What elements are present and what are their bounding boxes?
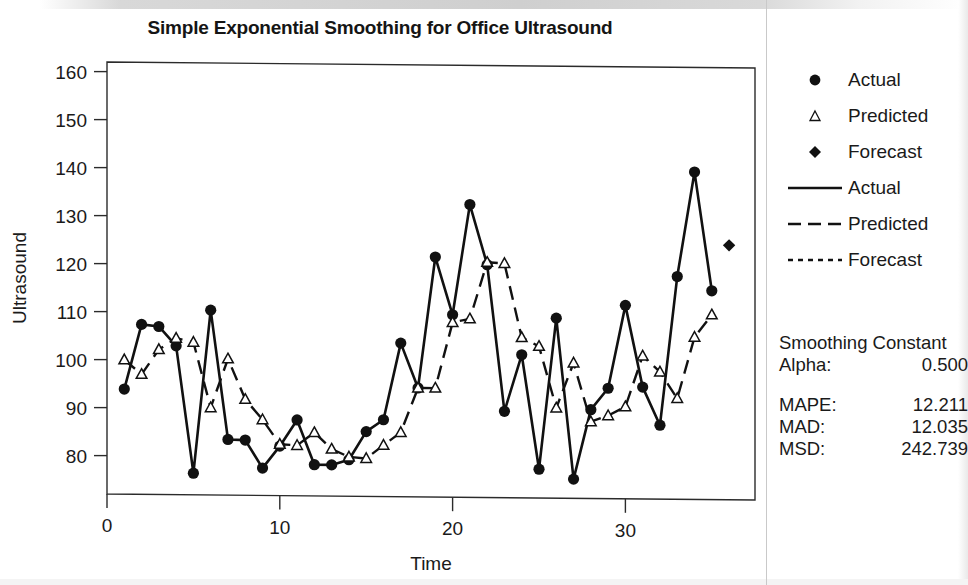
data-point-predicted xyxy=(465,313,476,323)
data-point-actual xyxy=(585,404,596,415)
y-axis-tick-label: 90 xyxy=(66,398,87,419)
data-point-actual xyxy=(551,313,562,324)
data-point-actual xyxy=(205,305,216,316)
legend-item-predicted-marker: Predicted xyxy=(782,98,968,134)
alpha-value: 0.500 xyxy=(922,354,968,376)
legend-label: Predicted xyxy=(848,213,928,235)
y-axis-tick-label: 100 xyxy=(55,350,87,371)
legend-item-forecast-line: Forecast xyxy=(782,242,968,278)
data-point-actual xyxy=(326,459,337,470)
filled-diamond-marker-icon xyxy=(782,142,848,162)
legend-label: Forecast xyxy=(848,249,922,271)
data-point-forecast xyxy=(723,239,735,251)
series-line-actual xyxy=(124,172,712,479)
data-point-actual xyxy=(568,474,579,485)
data-point-actual xyxy=(706,285,717,296)
data-point-predicted xyxy=(516,332,527,342)
data-point-predicted xyxy=(499,258,510,268)
data-point-actual xyxy=(430,251,441,262)
legend-item-predicted-line: Predicted xyxy=(782,206,968,242)
legend-label: Actual xyxy=(848,177,901,199)
data-point-predicted xyxy=(637,350,648,360)
data-point-predicted xyxy=(119,354,130,364)
msd-row: MSD: 242.739 xyxy=(779,438,968,460)
msd-label: MSD: xyxy=(779,438,825,460)
statistics-panel: Smoothing Constant Alpha: 0.500 MAPE: 12… xyxy=(779,332,968,460)
data-point-predicted xyxy=(620,401,631,411)
data-point-predicted xyxy=(378,440,389,450)
mad-value: 12.035 xyxy=(911,416,968,438)
data-point-actual xyxy=(119,383,130,394)
dashed-line-icon xyxy=(782,217,848,231)
mad-label: MAD: xyxy=(779,416,825,438)
mape-value: 12.211 xyxy=(913,394,968,416)
open-triangle-marker-icon xyxy=(782,106,848,126)
legend-item-actual-line: Actual xyxy=(782,170,968,206)
x-axis-tick-label: 10 xyxy=(269,517,290,538)
y-axis-tick-label: 110 xyxy=(57,302,87,323)
x-axis-tick-label: 0 xyxy=(102,515,113,536)
data-point-actual xyxy=(620,300,631,311)
legend-item-forecast-marker: Forecast xyxy=(782,134,968,170)
stats-spacer xyxy=(779,376,968,394)
data-point-predicted xyxy=(395,427,406,437)
chart-legend: Actual Predicted Forecast Actual Predict… xyxy=(782,62,968,278)
data-point-actual xyxy=(361,426,372,437)
data-point-actual xyxy=(222,434,233,445)
y-axis-tick-label: 150 xyxy=(55,110,87,131)
y-axis-tick-label: 140 xyxy=(55,158,87,179)
series-line-predicted xyxy=(124,262,712,458)
y-axis-tick-label: 120 xyxy=(55,254,87,275)
legend-label: Predicted xyxy=(848,105,928,127)
mape-label: MAPE: xyxy=(779,394,837,416)
alpha-row: Alpha: 0.500 xyxy=(779,354,968,376)
smoothing-constant-heading: Smoothing Constant xyxy=(779,332,968,354)
data-point-actual xyxy=(516,349,527,360)
data-point-actual xyxy=(188,468,199,479)
data-point-actual xyxy=(689,166,700,177)
y-axis-tick-label: 160 xyxy=(55,62,87,83)
data-point-actual xyxy=(464,199,475,210)
data-point-actual xyxy=(257,462,268,473)
data-point-predicted xyxy=(706,309,717,319)
data-point-actual xyxy=(291,414,302,425)
data-point-actual xyxy=(603,383,614,394)
legend-label: Actual xyxy=(848,69,901,91)
data-point-actual xyxy=(637,382,648,393)
data-point-predicted xyxy=(568,357,579,367)
x-axis-tick-label: 30 xyxy=(615,520,636,541)
legend-label: Forecast xyxy=(848,141,922,163)
data-point-actual xyxy=(378,414,389,425)
y-axis-tick-label: 80 xyxy=(66,446,87,467)
y-axis-title: Ultrasound xyxy=(9,232,30,324)
chart-page: Simple Exponential Smoothing for Office … xyxy=(0,0,968,585)
data-point-actual xyxy=(672,271,683,282)
data-point-predicted xyxy=(240,394,251,404)
data-point-actual xyxy=(533,464,544,475)
data-point-actual xyxy=(309,459,320,470)
y-axis-tick-label: 130 xyxy=(55,206,87,227)
data-point-predicted xyxy=(326,443,337,453)
data-point-predicted xyxy=(223,353,234,363)
data-point-predicted xyxy=(205,402,216,412)
data-point-actual xyxy=(136,319,147,330)
data-point-predicted xyxy=(171,333,182,343)
data-point-actual xyxy=(654,420,665,431)
mape-row: MAPE: 12.211 xyxy=(779,394,968,416)
data-point-actual xyxy=(240,434,251,445)
data-point-actual xyxy=(395,338,406,349)
x-axis-title: Time xyxy=(410,553,452,574)
data-point-predicted xyxy=(188,337,199,347)
data-point-actual xyxy=(499,406,510,417)
data-point-predicted xyxy=(154,344,165,354)
filled-circle-marker-icon xyxy=(782,70,848,90)
alpha-label: Alpha: xyxy=(779,354,831,376)
legend-item-actual-marker: Actual xyxy=(782,62,968,98)
data-point-predicted xyxy=(309,427,320,437)
panel-divider xyxy=(766,0,767,585)
data-point-actual xyxy=(153,321,164,332)
data-point-predicted xyxy=(551,402,562,412)
solid-line-icon xyxy=(782,181,848,195)
x-axis-tick-label: 20 xyxy=(442,518,463,539)
data-point-predicted xyxy=(689,332,700,342)
